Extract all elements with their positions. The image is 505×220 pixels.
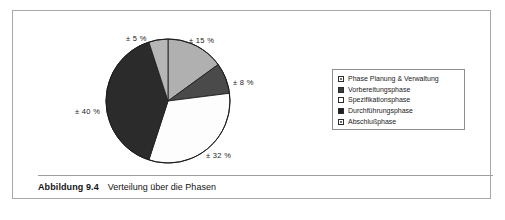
pie-label-abschlussphase: ± 5 % [126, 34, 147, 43]
pie-label-durchfuehrungsphase: ± 40 % [75, 107, 100, 116]
figure-panel: ± 5 % ± 15 % ± 8 % ± 32 % ± 40 % Phase P… [12, 10, 491, 199]
legend-label-planung-verwaltung: Phase Planung & Verwaltung [348, 75, 439, 83]
dark-gray-square-icon [338, 87, 344, 93]
white-square-icon [338, 97, 344, 103]
figure-caption-text: Verteilung über die Phasen [108, 182, 216, 192]
legend-label-spezifikationsphase: Spezifikationsphase [348, 96, 410, 104]
mid-gray-square-icon [338, 119, 344, 125]
black-square-icon [338, 108, 344, 114]
chart-legend: Phase Planung & Verwaltung Vorbereitungs… [332, 69, 465, 130]
pie-label-planung-verwaltung: ± 15 % [189, 36, 214, 45]
figure-caption: Abbildung 9.4Verteilung über die Phasen [38, 182, 216, 192]
pie-chart-svg [43, 29, 293, 169]
legend-item-durchfuehrungsphase: Durchführungsphase [338, 106, 459, 117]
figure-screenshot: ± 5 % ± 15 % ± 8 % ± 32 % ± 40 % Phase P… [0, 0, 505, 220]
legend-label-abschlussphase: Abschlußphase [348, 118, 396, 126]
legend-item-abschlussphase: Abschlußphase [338, 116, 459, 127]
legend-item-planung-verwaltung: Phase Planung & Verwaltung [338, 74, 459, 85]
legend-label-durchfuehrungsphase: Durchführungsphase [348, 107, 413, 115]
caption-divider [38, 175, 493, 176]
legend-item-vorbereitungsphase: Vorbereitungsphase [338, 85, 459, 96]
pie-label-spezifikationsphase: ± 32 % [206, 151, 231, 160]
figure-caption-number: Abbildung 9.4 [38, 182, 99, 192]
legend-label-vorbereitungsphase: Vorbereitungsphase [348, 86, 410, 94]
legend-item-spezifikationsphase: Spezifikationsphase [338, 95, 459, 106]
pie-label-vorbereitungsphase: ± 8 % [233, 78, 254, 87]
light-gray-square-icon [338, 76, 344, 82]
pie-chart [43, 29, 293, 169]
